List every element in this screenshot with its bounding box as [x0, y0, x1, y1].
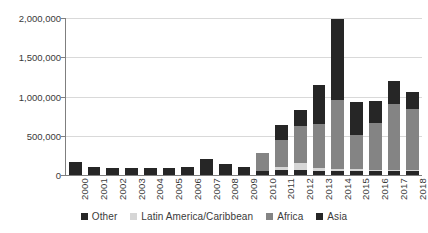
x-axis-tick-label: 2006 [192, 178, 203, 200]
y-axis-tick-label: 1,500,000 [0, 52, 61, 63]
bar-segment[interactable] [388, 171, 401, 175]
bar-segment[interactable] [388, 104, 401, 169]
bar-segment[interactable] [238, 167, 251, 175]
x-axis-tick-label: 2012 [304, 178, 315, 200]
bar-column[interactable] [406, 92, 419, 175]
y-axis-tick-mark [61, 175, 65, 176]
bar-column[interactable] [181, 167, 194, 175]
bar-segment[interactable] [406, 92, 419, 109]
bar-segment[interactable] [219, 164, 232, 175]
x-axis-tick-label: 2003 [136, 178, 147, 200]
bar-segment[interactable] [369, 171, 382, 175]
bar-segment[interactable] [331, 171, 344, 175]
x-axis-tick-label: 2013 [323, 178, 334, 200]
y-axis-tick-label: 500,000 [0, 130, 61, 141]
y-axis-tick-label: 0 [0, 170, 61, 181]
bar-column[interactable] [88, 167, 101, 175]
x-axis-tick-label: 2010 [267, 178, 278, 200]
x-axis-tick-label: 2016 [379, 178, 390, 200]
bar-segment[interactable] [106, 168, 119, 175]
chart-legend: OtherLatin America/CaribbeanAfricaAsia [0, 211, 428, 222]
bar-column[interactable] [200, 159, 213, 175]
x-axis-tick-label: 2014 [342, 178, 353, 200]
bar-segment[interactable] [350, 135, 363, 169]
bar-segment[interactable] [294, 126, 307, 164]
y-axis-tick-label: 1,000,000 [0, 91, 61, 102]
bar-segment[interactable] [331, 19, 344, 101]
bar-series-layer [66, 18, 422, 175]
y-axis-tick-mark [61, 57, 65, 58]
legend-item[interactable]: Other [81, 211, 118, 222]
x-axis-tick-label: 2011 [285, 178, 296, 199]
bar-column[interactable] [313, 85, 326, 175]
plot-area [66, 18, 422, 175]
bar-column[interactable] [144, 168, 157, 175]
y-axis-tick-mark [61, 136, 65, 137]
bar-column[interactable] [106, 168, 119, 175]
x-axis-tick-label: 2018 [417, 178, 428, 200]
bar-column[interactable] [125, 168, 138, 175]
bar-segment[interactable] [369, 101, 382, 123]
x-axis-tick-label: 2017 [398, 178, 409, 200]
bar-segment[interactable] [294, 110, 307, 126]
bar-segment[interactable] [181, 167, 194, 175]
legend-label: Other [92, 211, 118, 222]
bar-segment[interactable] [313, 171, 326, 175]
bar-segment[interactable] [256, 171, 269, 175]
legend-swatch-icon [316, 213, 323, 220]
bar-segment[interactable] [406, 109, 419, 169]
stacked-bar-chart: 0500,0001,000,0001,500,0002,000,000 2000… [0, 0, 428, 233]
legend-item[interactable]: Africa [266, 211, 303, 222]
y-axis-tick-label: 2,000,000 [0, 13, 61, 24]
bar-segment[interactable] [406, 171, 419, 175]
x-axis-tick-label: 2002 [117, 178, 128, 200]
bar-column[interactable] [69, 162, 82, 175]
bar-segment[interactable] [144, 168, 157, 175]
y-axis-tick-mark [61, 97, 65, 98]
x-axis-tick-label: 2009 [248, 178, 259, 200]
legend-label: Asia [327, 211, 347, 222]
bar-segment[interactable] [275, 170, 288, 175]
bar-segment[interactable] [200, 159, 213, 175]
bar-column[interactable] [238, 167, 251, 175]
bar-segment[interactable] [125, 168, 138, 175]
x-axis-tick-labels: 2000200120022003200420052006200720082009… [66, 178, 422, 212]
legend-label: Africa [277, 211, 303, 222]
bar-segment[interactable] [388, 81, 401, 105]
bar-segment[interactable] [313, 85, 326, 124]
x-axis-tick-label: 2007 [211, 178, 222, 200]
bar-segment[interactable] [313, 124, 326, 168]
legend-swatch-icon [81, 213, 88, 220]
bar-column[interactable] [256, 153, 269, 175]
x-axis-tick-label: 2005 [173, 178, 184, 200]
bar-column[interactable] [331, 19, 344, 175]
x-axis-tick-label: 2001 [98, 178, 109, 200]
bar-segment[interactable] [256, 153, 269, 170]
bar-column[interactable] [294, 110, 307, 175]
bar-segment[interactable] [275, 125, 288, 140]
bar-column[interactable] [369, 101, 382, 175]
y-axis-tick-mark [61, 18, 65, 19]
bar-segment[interactable] [350, 102, 363, 136]
bar-segment[interactable] [369, 123, 382, 169]
bar-segment[interactable] [350, 171, 363, 175]
bar-segment[interactable] [294, 170, 307, 175]
bar-column[interactable] [350, 102, 363, 175]
legend-item[interactable]: Asia [316, 211, 347, 222]
x-axis-tick-label: 2004 [154, 178, 165, 200]
legend-item[interactable]: Latin America/Caribbean [130, 211, 253, 222]
bar-column[interactable] [219, 164, 232, 175]
x-axis-tick-label: 2015 [360, 178, 371, 200]
bar-segment[interactable] [275, 140, 288, 167]
x-axis-tick-label: 2008 [229, 178, 240, 200]
legend-swatch-icon [130, 213, 137, 220]
bar-segment[interactable] [331, 100, 344, 168]
bar-segment[interactable] [163, 168, 176, 175]
bar-segment[interactable] [88, 167, 101, 175]
bar-segment[interactable] [69, 162, 82, 175]
bar-segment[interactable] [294, 163, 307, 170]
bar-column[interactable] [388, 81, 401, 175]
bar-column[interactable] [275, 125, 288, 175]
bar-column[interactable] [163, 168, 176, 175]
legend-label: Latin America/Caribbean [141, 211, 253, 222]
